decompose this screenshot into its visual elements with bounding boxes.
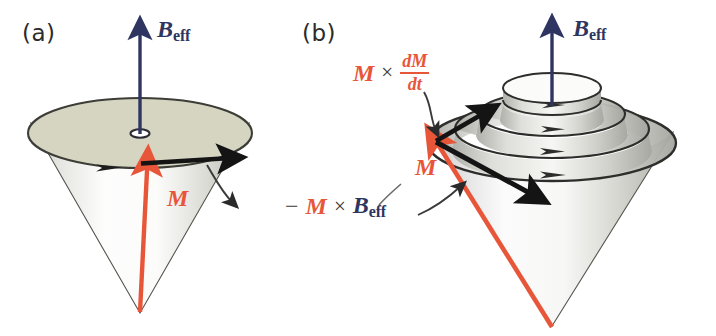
damping-denominator-b: dt xyxy=(406,74,424,94)
field-subscript-b: eff xyxy=(589,26,606,43)
torque-m-symbol-a: M xyxy=(306,194,327,218)
damping-label-leader-b xyxy=(424,92,436,131)
field-label-a: Beff xyxy=(157,17,190,44)
precession-figure: (a) (b) Beff M − M × Beff M × dM dt M Be… xyxy=(0,0,716,336)
field-symbol-b: B xyxy=(573,15,589,41)
field-symbol-a: B xyxy=(157,16,173,42)
damping-m-symbol-b: M xyxy=(353,61,374,85)
magnetization-label-a: M xyxy=(167,186,188,210)
panel-a-graphic xyxy=(28,28,401,313)
torque-label-a: − M × Beff xyxy=(285,193,386,220)
precession-label-leader-b xyxy=(418,186,461,215)
panel-b-graphic xyxy=(418,26,676,327)
magnetization-label-b: M xyxy=(415,155,436,179)
panel-label-a: (a) xyxy=(22,22,56,45)
torque-b-symbol-a: Beff xyxy=(353,193,386,220)
torque-minus-sign-a: − xyxy=(285,194,299,218)
field-label-b: Beff xyxy=(573,16,606,43)
torque-cross-operator-a: × xyxy=(334,196,346,217)
panel-label-b: (b) xyxy=(302,22,336,45)
field-subscript-a: eff xyxy=(173,27,190,44)
torque-b-subscript-a: eff xyxy=(369,203,386,220)
damping-label-b: M × dM dt xyxy=(353,52,429,94)
damping-fraction-b: dM dt xyxy=(400,52,429,94)
figure-canvas xyxy=(0,0,716,336)
damping-numerator-b: dM xyxy=(400,52,429,72)
damping-cross-operator-b: × xyxy=(381,62,393,83)
